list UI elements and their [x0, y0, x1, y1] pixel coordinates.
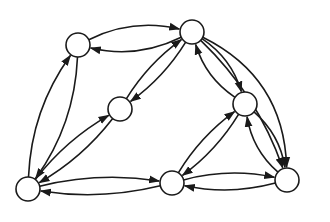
edge-G-to-F [185, 183, 276, 190]
node-G [275, 168, 299, 192]
directed-graph-diagram [0, 0, 330, 222]
edge-C-to-B [126, 40, 181, 99]
edge-F-to-E [41, 186, 161, 195]
edge-D-to-F [183, 114, 239, 175]
node-D [233, 92, 257, 116]
node-C [108, 97, 132, 121]
node-F [160, 171, 184, 195]
node-E [16, 177, 40, 201]
edge-E-to-A [29, 56, 71, 178]
edge-F-to-D [178, 112, 234, 173]
edge-E-to-F [40, 177, 160, 186]
node-B [180, 20, 204, 44]
edge-A-to-B [89, 25, 180, 39]
edge-C-to-E [39, 119, 112, 183]
node-A [66, 33, 90, 57]
edge-F-to-G [184, 173, 275, 180]
edge-E-to-C [35, 115, 108, 179]
